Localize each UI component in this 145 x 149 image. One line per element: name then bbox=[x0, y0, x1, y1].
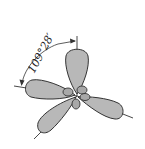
sp3-orbital-diagram: 109°28′ bbox=[0, 0, 145, 149]
lobe-lower-left bbox=[38, 97, 76, 133]
arrowhead-icon bbox=[70, 39, 76, 44]
angle-label: 109°28′ bbox=[25, 31, 57, 76]
arrowhead-icon bbox=[20, 80, 25, 87]
